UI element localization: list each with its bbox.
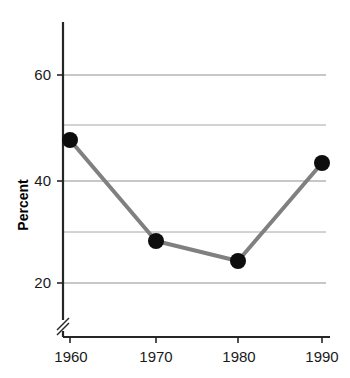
y-axis-title: Percent: [15, 179, 31, 231]
data-point-1970: [148, 233, 164, 249]
x-tick-label-1980: 1980: [222, 348, 255, 365]
x-tick-label-1970: 1970: [139, 348, 172, 365]
data-point-1960: [62, 132, 78, 148]
data-point-1990: [314, 155, 330, 171]
y-tick-label-40: 40: [34, 172, 51, 189]
y-tick-label-60: 60: [34, 66, 51, 83]
chart-figure: 60 40 20 1960 1970 1980 1990 Percent: [0, 0, 350, 378]
y-tick-label-20: 20: [34, 274, 51, 291]
line-chart: 60 40 20 1960 1970 1980 1990 Percent: [0, 0, 350, 378]
x-tick-label-1960: 1960: [54, 348, 87, 365]
x-tick-label-1990: 1990: [305, 348, 338, 365]
data-point-1980: [230, 253, 246, 269]
